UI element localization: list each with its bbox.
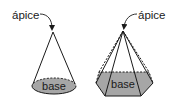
- diagram-canvas: ápice base ápice base: [0, 0, 171, 106]
- pyramid-apex-label: ápice: [138, 9, 166, 21]
- pyramid-base-label: base: [111, 78, 135, 90]
- cone-pyramid-diagram: ápice base ápice base: [0, 0, 171, 106]
- cone-right-edge: [53, 32, 75, 84]
- cone-apex-arrow: [40, 14, 52, 28]
- cone-figure: ápice base: [12, 9, 76, 94]
- cone-apex-label: ápice: [12, 9, 40, 21]
- pyramid-apex-arrow: [124, 14, 137, 27]
- cone-left-edge: [33, 32, 53, 84]
- cone-base-label: base: [42, 80, 66, 92]
- pyramid-figure: ápice base: [96, 9, 166, 96]
